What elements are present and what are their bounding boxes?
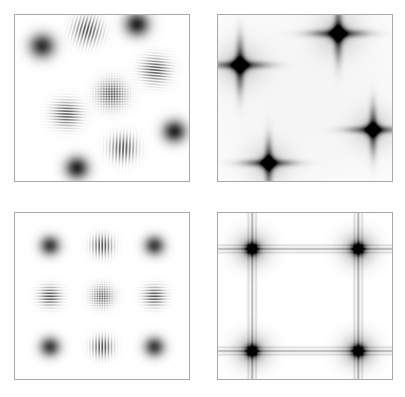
panel-bottom-right xyxy=(217,212,393,380)
panel-top-left xyxy=(14,14,190,182)
panel-bottom-left-canvas xyxy=(15,213,189,379)
panel-bottom-left xyxy=(14,212,190,380)
panel-top-right xyxy=(217,14,393,182)
panel-top-right-canvas xyxy=(218,15,392,181)
panel-bottom-right-canvas xyxy=(218,213,392,379)
panel-top-left-canvas xyxy=(15,15,189,181)
figure-container xyxy=(0,0,405,397)
